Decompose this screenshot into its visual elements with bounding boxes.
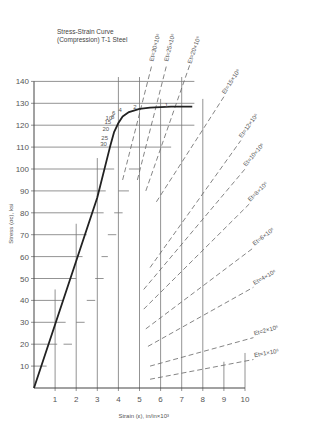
y-tick-label: 30 — [20, 318, 29, 327]
x-tick-label: 6 — [158, 395, 163, 404]
x-tick-label: 4 — [116, 395, 121, 404]
tangent-modulus-line — [144, 169, 245, 289]
tangent-modulus-line — [156, 97, 224, 202]
tangent-modulus-line — [150, 141, 241, 268]
y-tick-label: 130 — [16, 99, 30, 108]
x-tick-label: 1 — [53, 395, 58, 404]
y-tick-label: 60 — [20, 253, 29, 262]
tangent-modulus-label: Et=6×10⁶ — [251, 226, 275, 246]
y-tick-label: 50 — [20, 275, 29, 284]
curve-point-label: 25 — [101, 135, 108, 141]
curve-point-label: 6 — [112, 110, 116, 116]
y-axis-label: Stress (σc), ksi — [8, 204, 14, 244]
tangent-modulus-label: Et=15×10⁶ — [221, 67, 242, 95]
y-tick-label: 10 — [20, 362, 29, 371]
y-tick-label: 80 — [20, 209, 29, 218]
x-axis-label: Strain (ε), in/in×10³ — [118, 413, 169, 419]
y-tick-label: 110 — [16, 143, 29, 152]
curve-point-label: 4 — [118, 107, 122, 113]
curve-point-label: 30 — [100, 141, 107, 147]
tangent-modulus-line — [146, 248, 254, 329]
x-tick-label: 9 — [222, 395, 227, 404]
tangent-modulus-line — [150, 360, 253, 380]
y-tick-label: 100 — [16, 165, 30, 174]
tangent-modulus-line — [146, 64, 190, 191]
tangent-modulus-label: Et=12×10⁶ — [238, 112, 260, 139]
x-tick-label: 8 — [201, 395, 206, 404]
tangent-modulus-label: Et=10×10⁶ — [242, 141, 265, 167]
y-tick-label: 120 — [16, 121, 30, 130]
y-tick-label: 140 — [16, 77, 30, 86]
stress-strain-curve — [34, 107, 192, 388]
tangent-modulus-label: Et=30×10⁶ — [148, 32, 161, 62]
tangent-modulus-line — [150, 338, 253, 366]
curve-point-label: 20 — [102, 126, 109, 132]
tangent-modulus-label: Et=8×10⁶ — [247, 180, 269, 202]
tangent-modulus-line — [144, 204, 250, 309]
x-tick-label: 3 — [95, 395, 100, 404]
y-tick-label: 90 — [20, 187, 29, 196]
stress-strain-chart: 1020304050607080901001101201301401234567… — [0, 0, 310, 430]
x-tick-label: 7 — [179, 395, 184, 404]
tangent-modulus-label: Et=1×10⁶ — [254, 348, 280, 359]
x-tick-label: 10 — [241, 395, 250, 404]
y-tick-label: 70 — [20, 231, 29, 240]
tangent-modulus-label: Et=2×10⁶ — [253, 324, 279, 337]
x-tick-label: 2 — [74, 395, 79, 404]
tangent-modulus-line — [148, 287, 254, 346]
tangent-modulus-label: Et=25×10⁶ — [163, 32, 176, 62]
x-tick-label: 5 — [137, 395, 142, 404]
tangent-modulus-label: Et=20×10⁶ — [186, 35, 201, 64]
tangent-modulus-label: Et=4×10⁶ — [252, 268, 277, 286]
y-tick-label: 40 — [20, 296, 29, 305]
y-tick-label: 20 — [20, 340, 29, 349]
